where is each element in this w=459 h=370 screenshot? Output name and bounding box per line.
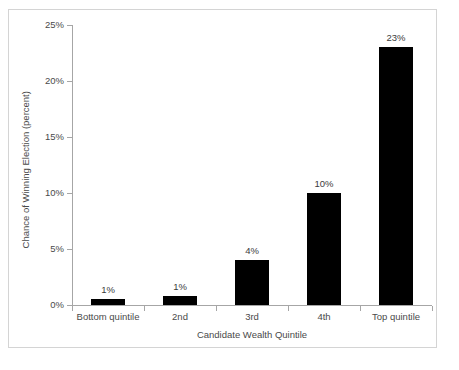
bar-data-label: 1% [173,282,187,292]
bar-data-label: 1% [101,285,115,295]
x-axis-category-label: Top quintile [372,312,420,322]
bar-2 [163,296,197,305]
bar-data-label: 10% [314,179,333,189]
y-axis-tick-label: 25% [24,20,64,30]
chart-container: 0%5%10%15%20%25% 1%1%4%10%23% Bottom qui… [0,0,459,370]
bar-4 [307,193,341,305]
x-axis-category-label: Bottom quintile [77,312,140,322]
x-axis-tick [288,306,289,311]
x-axis-category-label: 3rd [245,312,259,322]
bar-3 [235,260,269,305]
bar-5 [379,47,413,305]
y-axis-tick-label: 0% [24,300,64,310]
plot-area [72,25,432,305]
y-axis-title: Chance of Winning Election (percent) [21,70,31,270]
x-axis-category-label: 4th [317,312,330,322]
x-axis-tick [432,306,433,311]
x-axis-tick [360,306,361,311]
x-axis-tick [216,306,217,311]
bar-data-label: 23% [386,33,405,43]
x-axis-tick [72,306,73,311]
bar-data-label: 4% [245,246,259,256]
bar-1 [91,299,125,305]
x-axis-tick [144,306,145,311]
x-axis-line [72,305,432,306]
x-axis-title: Candidate Wealth Quintile [72,330,432,340]
x-axis-category-label: 2nd [172,312,188,322]
